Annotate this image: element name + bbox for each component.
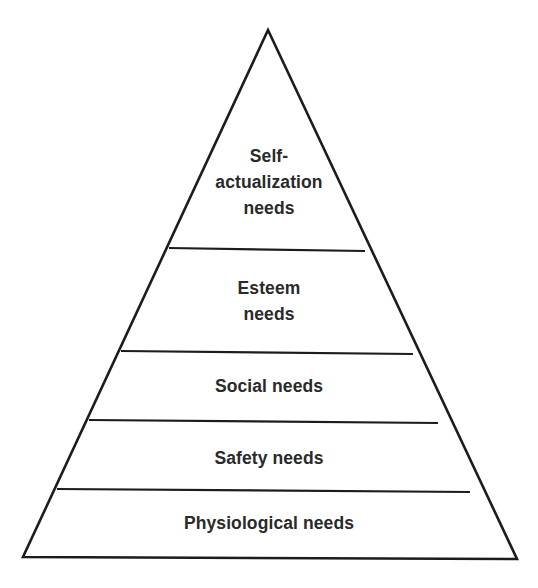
level-safety: Safety needs (0, 445, 538, 471)
level-physiological: Physiological needs (0, 510, 538, 536)
level-esteem-line-2: needs (0, 301, 538, 327)
level-safety-line-1: Safety needs (0, 445, 538, 471)
level-esteem: Esteem needs (0, 275, 538, 327)
level-social: Social needs (0, 373, 538, 399)
level-self-actualization-line-2: actualization (0, 169, 538, 195)
level-social-line-1: Social needs (0, 373, 538, 399)
level-esteem-line-1: Esteem (0, 275, 538, 301)
level-self-actualization-line-3: needs (0, 195, 538, 221)
level-self-actualization: Self- actualization needs (0, 143, 538, 221)
level-physiological-line-1: Physiological needs (0, 510, 538, 536)
level-self-actualization-line-1: Self- (0, 143, 538, 169)
